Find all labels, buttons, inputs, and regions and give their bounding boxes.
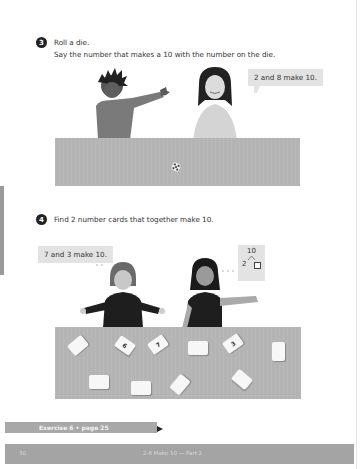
number-card[interactable] — [131, 381, 151, 395]
boy-pointing-illustration — [90, 64, 170, 140]
task-number-badge: 3 — [36, 37, 47, 48]
footer-chapter-title: 2-6 Make 10 — Part 2 — [143, 450, 202, 456]
girl-illustration — [185, 64, 245, 140]
page-number: 30 — [19, 450, 26, 456]
number-bond-whole: 10 — [242, 247, 261, 255]
speech-bubble-task3: 2 and 8 make 10. — [248, 69, 323, 86]
number-card[interactable] — [188, 341, 208, 355]
task-4-instruction: Find 2 number cards that together make 1… — [54, 214, 214, 225]
task-number-badge: 4 — [36, 214, 47, 225]
chapter-side-tab — [0, 186, 4, 275]
task-3-instruction-2: Say the number that makes a 10 with the … — [54, 49, 275, 60]
arrow-right-icon — [157, 426, 163, 432]
number-card[interactable] — [272, 342, 285, 361]
girl-shrugging-illustration — [78, 256, 168, 328]
table-task3 — [55, 138, 300, 186]
page-edge — [356, 0, 357, 469]
page-footer: 30 2-6 Make 10 — Part 2 — [5, 444, 354, 464]
boy-pointing-illustration-2 — [178, 256, 263, 328]
exercise-link[interactable]: Exercise 6 • page 25 — [5, 422, 157, 433]
task-3-instruction-1: Roll a die. — [54, 37, 89, 48]
number-card[interactable] — [89, 375, 109, 389]
